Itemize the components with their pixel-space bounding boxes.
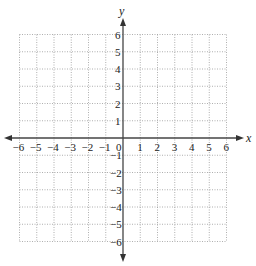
y-axis-up-arrow-icon [120,18,126,26]
x-tick-label: 1 [137,141,143,153]
y-tick-label: −2 [110,167,122,179]
y-tick-label: −4 [110,201,122,213]
x-tick-label: −6 [13,141,25,153]
y-tick-label: −6 [110,236,122,248]
y-tick-label: −3 [110,184,122,196]
x-tick-label: −2 [82,141,94,153]
axes [4,18,244,262]
y-tick-label: 5 [115,46,121,58]
x-tick-label: 3 [172,141,178,153]
y-tick-label: 3 [115,80,121,92]
x-tick-label: −1 [99,141,111,153]
x-tick-label: −4 [47,141,59,153]
x-tick-label: 5 [206,141,212,153]
y-tick-label: −5 [110,218,122,230]
x-tick-label: 4 [189,141,195,153]
y-tick-label: 1 [115,115,121,127]
x-tick-label: 6 [224,141,230,153]
x-axis-left-arrow-icon [4,135,12,141]
y-tick-label: 6 [115,29,121,41]
coordinate-plane: x y 0 −6−5−4−3−2−1123456 654321−1−2−3−4−… [0,0,256,266]
y-axis-label: y [118,4,125,18]
x-tick-label: −5 [30,141,42,153]
x-tick-label: −3 [64,141,76,153]
x-tick-label: 2 [155,141,161,153]
y-tick-label: 4 [115,63,121,75]
x-axis-right-arrow-icon [236,135,244,141]
y-tick-label: 2 [115,98,121,110]
y-axis-down-arrow-icon [120,254,126,262]
y-tick-label: −1 [110,149,122,161]
x-axis-label: x [245,131,252,145]
